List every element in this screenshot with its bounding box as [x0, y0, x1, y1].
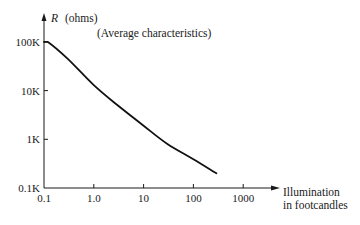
y-ticks: 0.1K1K10K100K [16, 36, 48, 194]
x-axis-label-line-2: in footcandles [283, 199, 348, 211]
y-tick-label: 1K [27, 133, 41, 145]
y-tick-label: 100K [16, 36, 41, 48]
x-ticks: 0.11.0101001000 [37, 184, 255, 204]
x-tick-label: 1.0 [87, 192, 101, 204]
chart-annotation: (Average characteristics) [97, 27, 212, 40]
x-tick-label: 10 [138, 192, 150, 204]
y-axis-symbol: R [50, 12, 58, 24]
x-axis-arrow-icon [271, 186, 280, 191]
y-axis-arrow-icon [42, 13, 47, 21]
resistance-illumination-chart: 0.11.0101001000 0.1K1K10K100K R (ohms) (… [0, 0, 360, 225]
y-tick-label: 0.1K [18, 182, 40, 194]
x-axis-label-line-1: Illumination [283, 186, 340, 198]
y-axis-unit: (ohms) [65, 12, 98, 25]
y-tick-label: 10K [21, 85, 40, 97]
resistance-curve [44, 42, 216, 173]
x-tick-label: 1000 [232, 192, 255, 204]
axes [42, 13, 281, 191]
y-axis-label: R (ohms) [50, 12, 98, 25]
x-tick-label: 100 [185, 192, 202, 204]
